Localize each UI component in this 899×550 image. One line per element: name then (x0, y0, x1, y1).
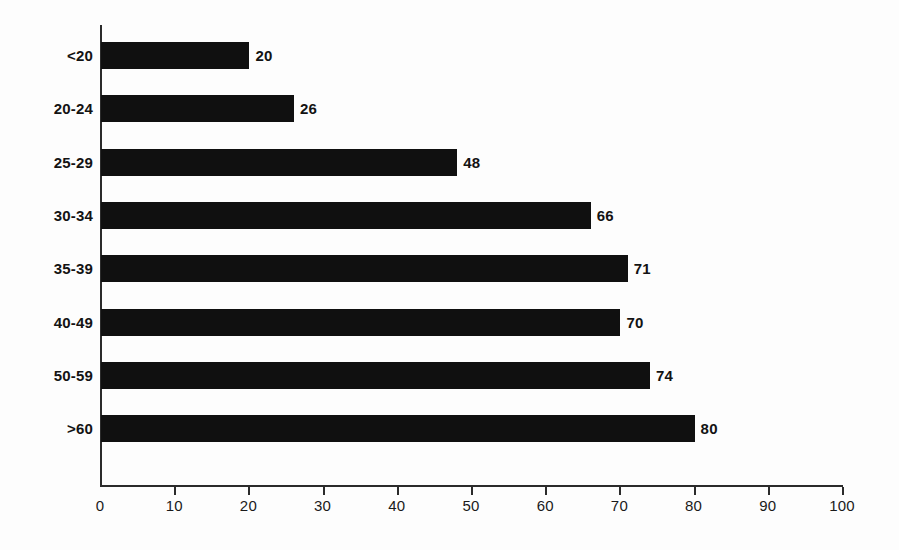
bar-value-label: 80 (701, 415, 718, 442)
bar-row: >6080 (0, 415, 899, 442)
x-axis-tick-label: 20 (226, 497, 270, 515)
bar-row: 30-3466 (0, 202, 899, 229)
bar-row: 20-2426 (0, 95, 899, 122)
x-axis-tick-label: 0 (78, 497, 122, 515)
x-axis-tick-label: 100 (820, 497, 864, 515)
bar-value-label: 20 (255, 42, 272, 69)
bar-value-label: 48 (463, 149, 480, 176)
x-axis-tick-label: 30 (301, 497, 345, 515)
x-axis-tick (545, 487, 547, 495)
x-axis-tick-label: 70 (597, 497, 641, 515)
bar (101, 255, 628, 282)
x-axis-tick-label: 50 (449, 497, 493, 515)
category-label: 25-29 (0, 149, 93, 176)
bar (101, 362, 650, 389)
x-axis-tick (619, 487, 621, 495)
bar (101, 202, 591, 229)
x-axis-tick (323, 487, 325, 495)
bar-value-label: 66 (597, 202, 614, 229)
x-axis-tick (174, 487, 176, 495)
bar-chart: <202020-242625-294830-346635-397140-4970… (0, 0, 899, 550)
x-axis-tick (842, 487, 844, 495)
bar-value-label: 74 (656, 362, 673, 389)
category-label: 40-49 (0, 309, 93, 336)
bar-row: 50-5974 (0, 362, 899, 389)
x-axis-tick-label: 60 (523, 497, 567, 515)
x-axis-tick-label: 40 (375, 497, 419, 515)
x-axis-tick-label: 10 (152, 497, 196, 515)
category-label: >60 (0, 415, 93, 442)
bar (101, 415, 695, 442)
category-label: 35-39 (0, 255, 93, 282)
category-label: 50-59 (0, 362, 93, 389)
bar-row: 35-3971 (0, 255, 899, 282)
category-label: 20-24 (0, 95, 93, 122)
bar-value-label: 71 (634, 255, 651, 282)
category-label: 30-34 (0, 202, 93, 229)
x-axis-tick (248, 487, 250, 495)
bar-value-label: 70 (626, 309, 643, 336)
x-axis-tick (694, 487, 696, 495)
bar (101, 95, 294, 122)
bar (101, 42, 249, 69)
bar (101, 149, 457, 176)
bar-row: 25-2948 (0, 149, 899, 176)
bar-value-label: 26 (300, 95, 317, 122)
bar-row: 40-4970 (0, 309, 899, 336)
x-axis-tick (768, 487, 770, 495)
x-axis-tick (471, 487, 473, 495)
x-axis-tick-label: 80 (672, 497, 716, 515)
x-axis-tick-label: 90 (746, 497, 790, 515)
bar-row: <2020 (0, 42, 899, 69)
bar (101, 309, 620, 336)
category-label: <20 (0, 42, 93, 69)
x-axis-tick (397, 487, 399, 495)
